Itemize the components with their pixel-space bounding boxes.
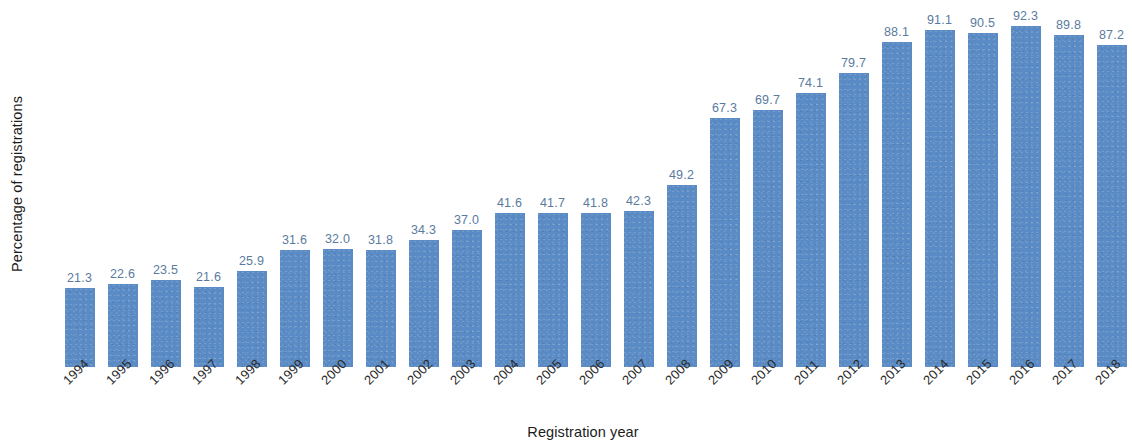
x-tick-label: 2016 [1004, 371, 1047, 423]
bar-group: 49.2 [660, 0, 703, 367]
bar-group: 23.5 [144, 0, 187, 367]
bar-group: 90.5 [961, 0, 1004, 367]
bar [1011, 26, 1041, 367]
bar-value-label: 87.2 [1086, 28, 1132, 42]
x-axis-title: Registration year [44, 424, 1122, 440]
bar [452, 230, 482, 367]
bar [882, 42, 912, 367]
x-tick-label: 2000 [316, 371, 359, 423]
bar-value-label: 69.7 [742, 93, 793, 107]
bar-value-label: 25.9 [226, 254, 277, 268]
bar-group: 89.8 [1047, 0, 1090, 367]
bar-group: 91.1 [918, 0, 961, 367]
bar [839, 73, 869, 367]
bar [1054, 35, 1084, 367]
bar-group: 79.7 [832, 0, 875, 367]
bar [108, 284, 138, 367]
bar-group: 92.3 [1004, 0, 1047, 367]
bar [624, 211, 654, 367]
bar-group: 41.7 [531, 0, 574, 367]
bar-group: 69.7 [746, 0, 789, 367]
bar-group: 31.8 [359, 0, 402, 367]
bar-group: 21.3 [58, 0, 101, 367]
bar-value-label: 37.0 [441, 213, 492, 227]
bar-group: 42.3 [617, 0, 660, 367]
x-tick-label: 1999 [273, 371, 316, 423]
y-axis-title: Percentage of registrations [0, 0, 34, 367]
x-tick-label: 2017 [1047, 371, 1090, 423]
y-axis-title-text: Percentage of registrations [9, 96, 25, 272]
bar [280, 250, 310, 367]
bar [581, 213, 611, 367]
x-tick-label: 2001 [359, 371, 402, 423]
bar [495, 213, 525, 367]
bar [323, 249, 353, 367]
bar [1097, 45, 1127, 367]
x-tick-label: 2004 [488, 371, 531, 423]
x-tick-label: 2013 [875, 371, 918, 423]
x-tick-label: 2009 [703, 371, 746, 423]
x-tick-label: 2018 [1090, 371, 1132, 423]
bar-group: 41.8 [574, 0, 617, 367]
x-tick-label: 2008 [660, 371, 703, 423]
bar-group: 88.1 [875, 0, 918, 367]
x-axis-tick-labels: 1994199519961997199819992000200120022003… [44, 367, 1122, 425]
x-tick-label: 1994 [58, 371, 101, 423]
bar [151, 280, 181, 367]
bar [968, 33, 998, 367]
bar-value-label: 74.1 [785, 76, 836, 90]
bar-value-label: 79.7 [828, 56, 879, 70]
x-tick-label: 2003 [445, 371, 488, 423]
x-tick-label: 2002 [402, 371, 445, 423]
bar-group: 87.2 [1090, 0, 1132, 367]
bar-group: 21.6 [187, 0, 230, 367]
x-tick-label: 2015 [961, 371, 1004, 423]
x-tick-label: 1996 [144, 371, 187, 423]
bar-group: 37.0 [445, 0, 488, 367]
bar [409, 240, 439, 367]
x-tick-label: 2007 [617, 371, 660, 423]
x-tick-label: 1998 [230, 371, 273, 423]
x-tick-label: 2011 [789, 371, 832, 423]
bar [366, 250, 396, 367]
bar [667, 185, 697, 367]
bar-group: 74.1 [789, 0, 832, 367]
bar-group: 41.6 [488, 0, 531, 367]
x-tick-label: 1995 [101, 371, 144, 423]
x-tick-label: 1997 [187, 371, 230, 423]
bar-group: 34.3 [402, 0, 445, 367]
bar [796, 93, 826, 367]
bar [237, 271, 267, 367]
bar-value-label: 42.3 [613, 194, 664, 208]
x-tick-label: 2012 [832, 371, 875, 423]
x-tick-label: 2005 [531, 371, 574, 423]
bar-group: 22.6 [101, 0, 144, 367]
bar-group: 32.0 [316, 0, 359, 367]
bar [710, 118, 740, 367]
bar-group: 31.6 [273, 0, 316, 367]
x-tick-label: 2006 [574, 371, 617, 423]
x-tick-label: 2010 [746, 371, 789, 423]
bar [925, 30, 955, 367]
bar-chart: Percentage of registrations 21.322.623.5… [0, 0, 1132, 448]
plot-area: 21.322.623.521.625.931.632.031.834.337.0… [44, 0, 1122, 367]
bar-value-label: 49.2 [656, 168, 707, 182]
bar-value-label: 21.6 [183, 270, 234, 284]
bar [538, 213, 568, 367]
x-tick-label: 2014 [918, 371, 961, 423]
bar-group: 67.3 [703, 0, 746, 367]
bar [753, 110, 783, 368]
bar-group: 25.9 [230, 0, 273, 367]
